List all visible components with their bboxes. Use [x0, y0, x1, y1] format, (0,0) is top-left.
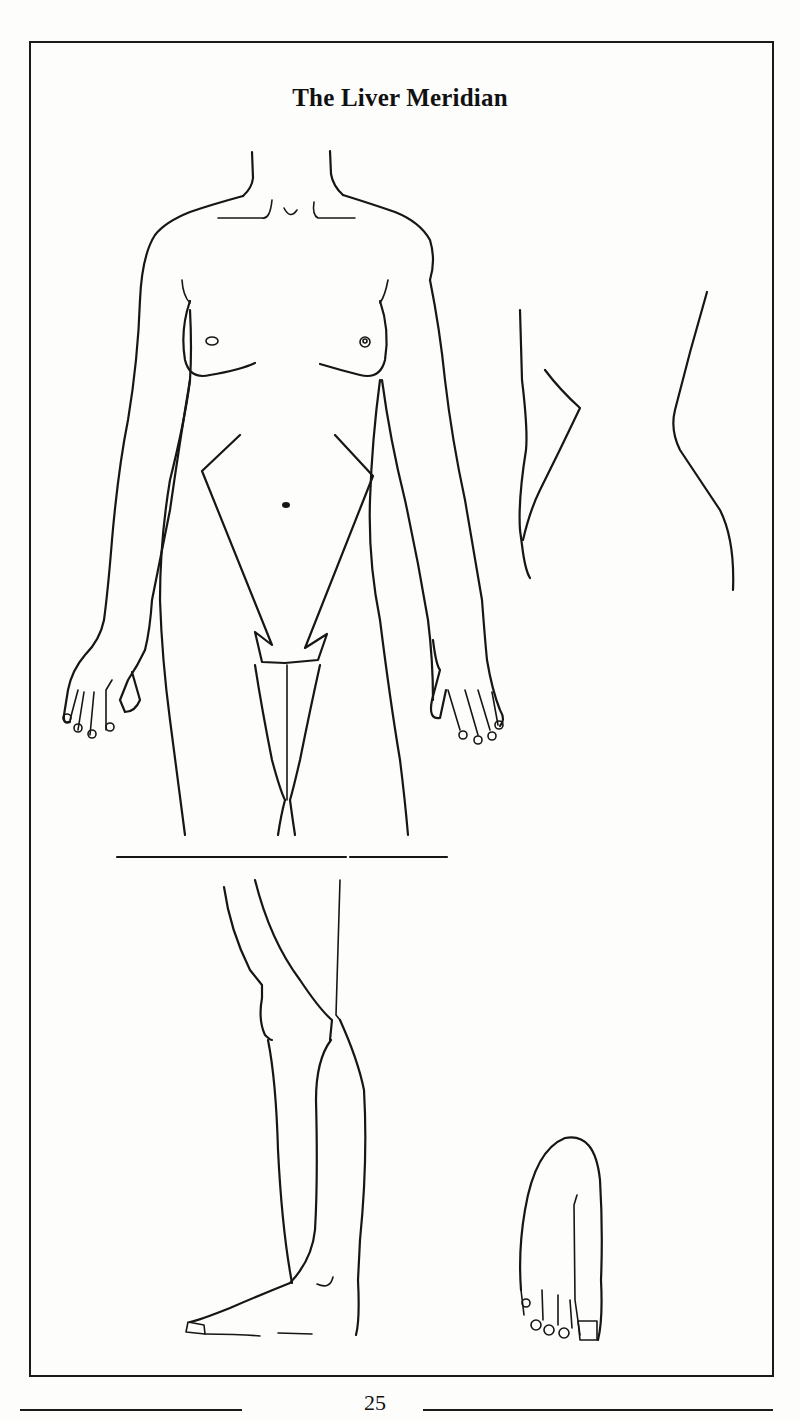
footer-rule-right	[423, 1409, 773, 1411]
document-page: The Liver Meridian	[0, 0, 800, 1421]
foot-top-figure	[520, 1137, 602, 1340]
liver-meridian-illustration	[0, 0, 800, 1421]
page-number: 25	[364, 1390, 386, 1416]
footer-rule-left	[20, 1409, 242, 1411]
side-torso-figure	[520, 292, 734, 590]
page-footer: 25	[0, 1390, 800, 1414]
right-hand-figure	[431, 640, 503, 744]
front-torso-figure	[104, 151, 487, 835]
lower-leg-figure	[186, 880, 365, 1336]
left-hand-figure	[63, 620, 145, 738]
